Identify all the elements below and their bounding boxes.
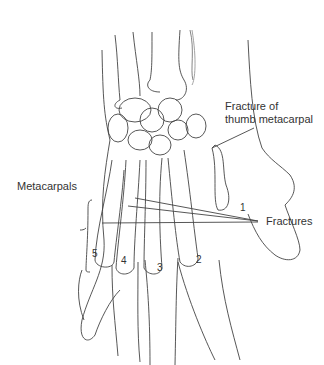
metacarpal-number-5: 5 (92, 248, 98, 259)
fracture-pointer-3 (102, 222, 258, 223)
metacarpals-bracket (80, 200, 92, 272)
finger-5 (79, 270, 85, 320)
metacarpal-number-2: 2 (196, 254, 202, 265)
forearm-outline (102, 50, 110, 140)
thumb-metacarpal (212, 145, 229, 210)
metacarpal-number-1: 1 (240, 202, 246, 213)
metacarpal-5 (95, 160, 124, 267)
metacarpal-number-3: 3 (157, 262, 163, 273)
ulna (115, 35, 122, 108)
label-line-1: Fracture of (225, 100, 313, 113)
finger-2 (178, 262, 215, 360)
metacarpals-label: Metacarpals (17, 180, 77, 193)
finger-4 (112, 265, 118, 356)
fractures-label: Fractures (266, 215, 312, 228)
finger-3 (145, 260, 150, 365)
radius (148, 32, 160, 92)
thumb-fracture-pointer (212, 128, 254, 148)
thumb-fracture-label: Fracture of thumb metacarpal (225, 100, 313, 126)
label-line-2: thumb metacarpal (225, 113, 313, 126)
metacarpal-3 (144, 158, 162, 274)
metacarpal-2 (168, 150, 198, 266)
metacarpal-number-4: 4 (121, 255, 127, 266)
